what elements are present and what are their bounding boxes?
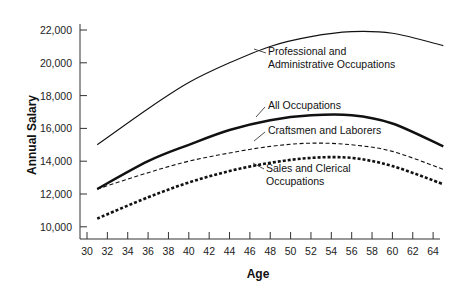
- x-tick-label: 40: [183, 245, 195, 257]
- label-sales-clerical: Sales and Clerical: [266, 162, 351, 174]
- y-tick-label: 14,000: [40, 155, 72, 167]
- x-tick-label: 48: [264, 245, 276, 257]
- label-professional: Administrative Occupations: [268, 58, 395, 70]
- y-axis: 10,00012,00014,00016,00018,00020,00022,0…: [40, 24, 87, 239]
- x-tick-label: 62: [407, 245, 419, 257]
- y-tick-label: 16,000: [40, 122, 72, 134]
- y-tick-label: 22,000: [40, 24, 72, 36]
- x-axis: 303234363840424446485052545658606264: [80, 232, 440, 257]
- x-tick-label: 52: [305, 245, 317, 257]
- x-tick-label: 46: [244, 245, 256, 257]
- y-tick-label: 18,000: [40, 90, 72, 102]
- label-professional: Professional and: [268, 45, 346, 57]
- x-axis-title: Age: [247, 267, 270, 281]
- y-axis-title: Annual Salary: [25, 95, 39, 175]
- y-tick-label: 12,000: [40, 188, 72, 200]
- x-tick-label: 36: [142, 245, 154, 257]
- leader-line: [256, 107, 265, 117]
- x-tick-label: 30: [81, 245, 93, 257]
- label-sales-clerical: Occupations: [266, 175, 324, 187]
- y-tick-label: 20,000: [40, 57, 72, 69]
- x-tick-label: 42: [203, 245, 215, 257]
- salary-by-age-chart: 10,00012,00014,00016,00018,00020,00022,0…: [0, 0, 470, 292]
- x-tick-label: 38: [163, 245, 175, 257]
- label-craftsmen: Craftsmen and Laborers: [268, 124, 381, 136]
- x-tick-label: 54: [325, 245, 337, 257]
- x-tick-label: 58: [366, 245, 378, 257]
- x-tick-label: 64: [427, 245, 439, 257]
- series-labels: Professional andAdministrative Occupatio…: [253, 45, 395, 187]
- leader-line: [254, 132, 265, 141]
- x-tick-label: 50: [285, 245, 297, 257]
- label-all-occupations: All Occupations: [268, 99, 341, 111]
- x-tick-label: 32: [102, 245, 114, 257]
- x-tick-label: 60: [387, 245, 399, 257]
- x-tick-label: 56: [346, 245, 358, 257]
- x-tick-label: 44: [224, 245, 236, 257]
- x-tick-label: 34: [122, 245, 134, 257]
- y-tick-label: 10,000: [40, 221, 72, 233]
